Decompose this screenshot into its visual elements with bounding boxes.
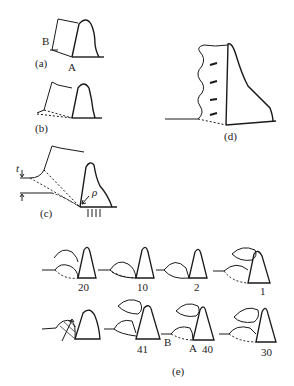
panel-d-drawing xyxy=(165,44,276,125)
panel-c-drawing xyxy=(20,146,117,217)
label-point-b-e: B xyxy=(164,337,171,348)
panel-b-drawing xyxy=(37,82,102,118)
panel-e-row2 xyxy=(42,300,276,342)
label-point-b-a: B xyxy=(42,36,49,47)
label-panel-c: (c) xyxy=(40,208,52,219)
label-e-10: 10 xyxy=(137,282,148,293)
label-point-a-a: A xyxy=(68,62,76,73)
panel-a-drawing xyxy=(50,19,104,57)
label-radius-rho: ρ xyxy=(92,187,97,198)
label-panel-e: (e) xyxy=(172,366,184,377)
panel-e-row1 xyxy=(42,247,270,283)
label-e-40: 40 xyxy=(202,344,213,355)
label-e-20: 20 xyxy=(78,282,89,293)
label-panel-b: (b) xyxy=(35,123,48,134)
label-thickness-t: t xyxy=(16,163,19,174)
label-e-2: 2 xyxy=(194,282,200,293)
label-e-1: 1 xyxy=(260,286,266,297)
label-panel-d: (d) xyxy=(224,131,237,142)
label-e-41: 41 xyxy=(137,344,148,355)
label-e-30: 30 xyxy=(261,347,272,358)
label-point-a-e: A xyxy=(189,343,197,354)
label-panel-a: (a) xyxy=(35,58,47,69)
